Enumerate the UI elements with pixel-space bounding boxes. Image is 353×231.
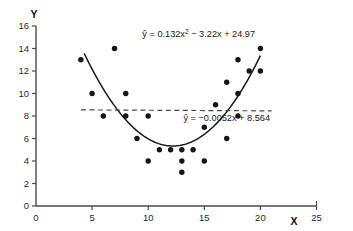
y-tick-label: 6 <box>24 133 29 144</box>
data-point <box>235 57 240 62</box>
y-tick-label: 14 <box>18 43 29 54</box>
data-point <box>213 102 218 107</box>
x-tick-label: 25 <box>311 212 322 223</box>
scatter-plot-figure: 0246810121416 0510152025 Y X ŷ = 0.132x2… <box>0 0 353 231</box>
y-axis: 0246810121416 <box>18 20 36 211</box>
data-point <box>202 125 207 130</box>
data-point <box>235 91 240 96</box>
data-point <box>224 80 229 85</box>
data-point <box>78 57 83 62</box>
data-point <box>179 147 184 152</box>
data-point <box>179 170 184 175</box>
x-tick-label: 15 <box>199 212 210 223</box>
data-point <box>224 136 229 141</box>
data-point <box>134 136 139 141</box>
data-point <box>168 147 173 152</box>
data-point <box>246 68 251 73</box>
y-tick-label: 4 <box>24 155 29 166</box>
y-tick-label: 2 <box>24 178 29 189</box>
x-axis: 0510152025 <box>33 201 321 223</box>
data-point <box>146 158 151 163</box>
data-point <box>123 91 128 96</box>
plot-canvas: 0246810121416 0510152025 Y X ŷ = 0.132x2… <box>0 0 353 231</box>
data-point <box>190 147 195 152</box>
data-point <box>89 91 94 96</box>
data-point <box>112 46 117 51</box>
data-point <box>157 147 162 152</box>
data-point <box>202 158 207 163</box>
x-tick-label: 5 <box>89 212 94 223</box>
quadratic-equation-annotation: ŷ = 0.132x2 − 3.22x + 24.97 <box>142 28 255 39</box>
data-point <box>258 68 263 73</box>
y-tick-label: 10 <box>18 88 29 99</box>
linear-equation-annotation: ŷ = −0.0052x + 8.564 <box>183 113 270 123</box>
data-point <box>123 113 128 118</box>
linear-fit-line <box>81 110 272 111</box>
x-tick-label: 20 <box>255 212 266 223</box>
quadratic-fit-curve <box>84 53 260 146</box>
x-tick-label: 0 <box>33 212 38 223</box>
data-point <box>146 113 151 118</box>
x-axis-title: X <box>291 215 298 227</box>
y-tick-label: 0 <box>24 200 29 211</box>
y-tick-label: 16 <box>18 20 29 31</box>
data-point <box>101 113 106 118</box>
y-tick-label: 12 <box>18 65 29 76</box>
data-point <box>179 158 184 163</box>
x-tick-label: 10 <box>143 212 154 223</box>
y-tick-label: 8 <box>24 110 29 121</box>
data-point <box>258 46 263 51</box>
y-axis-title: Y <box>30 8 37 20</box>
